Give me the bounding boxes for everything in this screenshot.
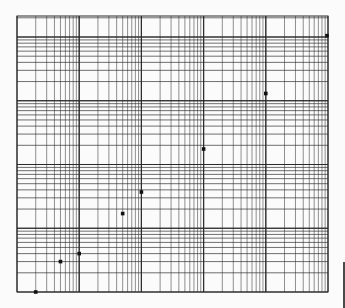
data-point	[264, 92, 268, 96]
vertical-grid-lines	[17, 16, 328, 292]
data-point	[325, 34, 329, 38]
log-log-chart	[0, 0, 345, 308]
plot-border	[17, 16, 328, 292]
data-point	[121, 212, 125, 216]
data-point	[59, 260, 63, 264]
data-point	[140, 190, 144, 194]
data-point	[77, 252, 81, 256]
data-point	[202, 147, 206, 151]
data-point	[34, 290, 38, 294]
horizontal-grid-lines	[17, 18, 328, 292]
